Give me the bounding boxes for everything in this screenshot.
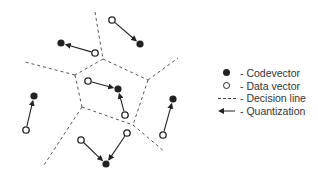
quantization-arrow bbox=[84, 143, 103, 161]
data-vector-dot bbox=[85, 78, 91, 84]
data-vectors bbox=[23, 17, 166, 143]
quantization-arrow bbox=[66, 44, 91, 51]
data-vector-dot bbox=[122, 112, 128, 118]
codevector-dot bbox=[57, 39, 64, 46]
legend-label: - Quantization bbox=[240, 105, 305, 118]
legend-item-codevector: - Codevector bbox=[218, 67, 306, 80]
data-vector-dot bbox=[78, 137, 84, 143]
legend-label: - Codevector bbox=[240, 67, 300, 80]
quantization-arrow bbox=[164, 104, 172, 131]
decision-line bbox=[75, 59, 103, 75]
legend-item-quantization: - Quantization bbox=[218, 105, 306, 118]
codevector-dot bbox=[114, 85, 121, 92]
quantization-arrow bbox=[109, 136, 125, 160]
quantization-arrow bbox=[115, 23, 136, 41]
decision-line bbox=[133, 80, 148, 125]
open-circle-icon bbox=[218, 80, 240, 92]
filled-circle-icon bbox=[218, 67, 240, 79]
quantization-arrows bbox=[27, 23, 172, 161]
legend-item-data-vector: - Data vector bbox=[218, 80, 306, 93]
legend: - Codevector - Data vector - Decision li… bbox=[218, 67, 306, 117]
decision-line bbox=[148, 58, 178, 80]
decision-line bbox=[44, 107, 82, 165]
data-vector-dot bbox=[92, 50, 98, 56]
quantization-arrow bbox=[27, 101, 33, 126]
data-vector-dot bbox=[124, 130, 130, 136]
quantization-arrow bbox=[119, 94, 124, 111]
decision-lines bbox=[25, 12, 178, 165]
legend-item-decision-line: - Decision line bbox=[218, 92, 306, 105]
codevectors bbox=[30, 39, 176, 167]
decision-line bbox=[133, 125, 165, 152]
legend-label: - Data vector bbox=[240, 80, 300, 93]
decision-line bbox=[103, 59, 148, 80]
quantization-arrow bbox=[92, 82, 113, 88]
codevector-dot bbox=[102, 160, 109, 167]
arrow-left-icon bbox=[218, 105, 240, 117]
codevector-dot bbox=[30, 92, 37, 99]
legend-label: - Decision line bbox=[240, 92, 306, 105]
decision-line bbox=[75, 75, 82, 107]
data-vector-dot bbox=[109, 17, 115, 23]
data-vector-dot bbox=[160, 132, 166, 138]
codevector-dot bbox=[136, 40, 143, 47]
decision-line bbox=[25, 62, 75, 75]
dashed-line-icon bbox=[218, 92, 240, 104]
data-vector-dot bbox=[23, 127, 29, 133]
codevector-dot bbox=[169, 95, 176, 102]
